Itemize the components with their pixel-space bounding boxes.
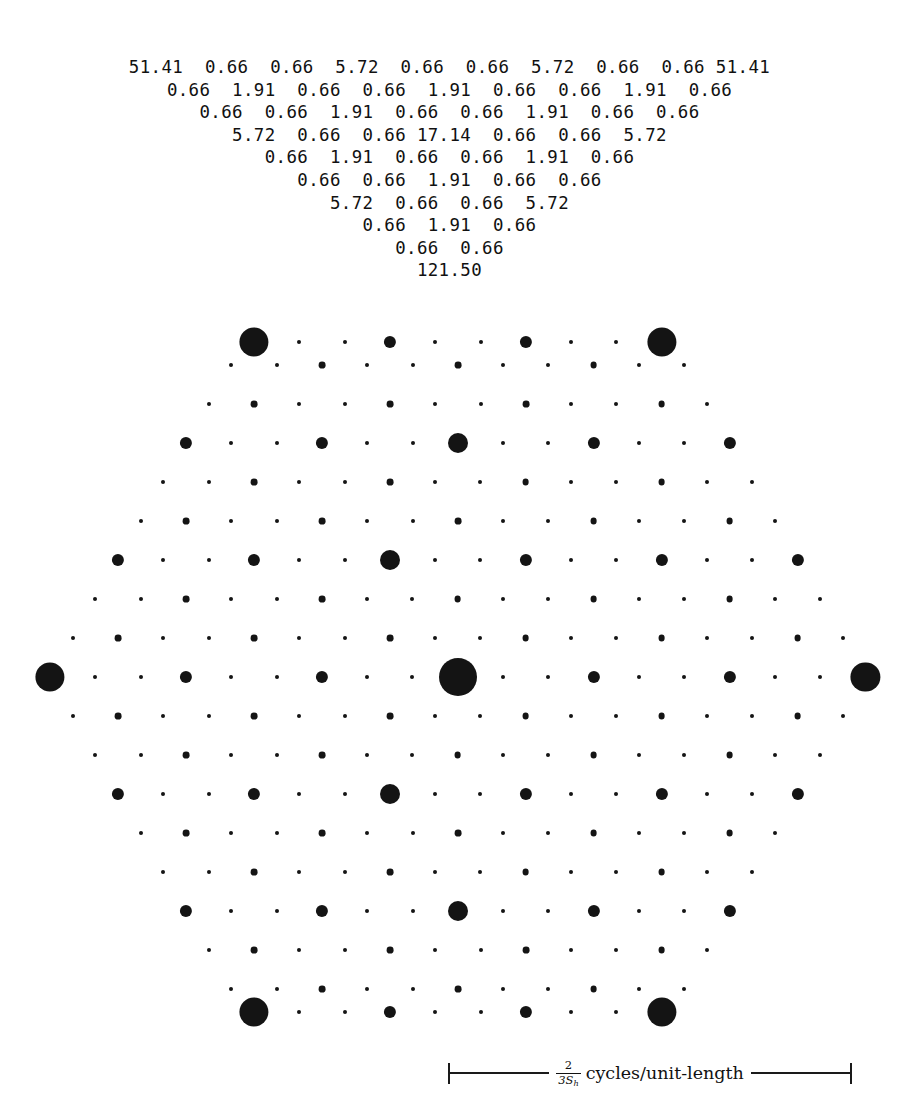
spectrum-dot <box>161 558 165 562</box>
spectrum-dot <box>569 792 573 796</box>
spectrum-dot <box>411 909 415 913</box>
spectrum-dot <box>682 519 686 523</box>
spectrum-dot <box>343 340 347 344</box>
spectrum-dot <box>318 362 325 369</box>
spectrum-dot <box>386 479 393 486</box>
spectrum-dot <box>773 753 777 757</box>
scale-fraction-denominator: 3Sh <box>556 1074 580 1087</box>
spectrum-dot <box>705 948 709 952</box>
spectrum-dot <box>478 480 482 484</box>
spectrum-dot <box>726 752 733 759</box>
spectrum-dot <box>614 480 618 484</box>
spectrum-dot <box>180 437 192 449</box>
spectrum-dot <box>297 792 301 796</box>
spectrum-dot <box>115 713 122 720</box>
spectrum-dot <box>297 480 301 484</box>
spectrum-dot <box>637 831 641 835</box>
spectrum-dot <box>520 1006 532 1018</box>
spectrum-dot <box>705 714 709 718</box>
spectrum-dot <box>501 909 505 913</box>
spectrum-dot <box>316 905 328 917</box>
spectrum-dot <box>851 662 880 691</box>
spectrum-dot <box>841 636 845 640</box>
spectrum-dot <box>705 480 709 484</box>
spectrum-dot <box>275 363 279 367</box>
spectrum-dot <box>275 909 279 913</box>
spectrum-dot <box>411 987 415 991</box>
spectrum-dot <box>546 831 550 835</box>
spectrum-dot <box>791 554 803 566</box>
spectrum-dot <box>316 671 328 683</box>
spectrum-dot <box>139 753 143 757</box>
spectrum-dot <box>343 948 347 952</box>
spectrum-dot <box>343 1010 347 1014</box>
spectrum-dot <box>637 441 641 445</box>
spectrum-dot <box>614 340 618 344</box>
spectrum-dot <box>637 363 641 367</box>
spectrum-dot <box>411 831 415 835</box>
spectrum-dot <box>588 905 600 917</box>
value-table-row: 0.66 1.91 0.66 <box>0 214 899 237</box>
spectrum-dot <box>546 597 550 601</box>
spectrum-dot <box>614 636 618 640</box>
spectrum-dot <box>522 869 529 876</box>
spectrum-dot <box>365 987 369 991</box>
spectrum-dot <box>637 519 641 523</box>
spectrum-dot <box>386 713 393 720</box>
spectrum-dot <box>411 363 415 367</box>
spectrum-dot <box>637 987 641 991</box>
spectrum-dot <box>297 870 301 874</box>
spectrum-dot <box>590 518 597 525</box>
spectrum-dot <box>297 402 301 406</box>
spectrum-dot <box>250 479 257 486</box>
spectrum-dot <box>705 792 709 796</box>
spectrum-dot <box>818 753 822 757</box>
spectrum-dot <box>501 597 505 601</box>
spectrum-dot <box>433 714 437 718</box>
spectrum-dot <box>316 437 328 449</box>
spectrum-dot <box>614 714 618 718</box>
spectrum-dot <box>433 948 437 952</box>
spectrum-dot <box>723 671 735 683</box>
scale-bar-left-rule <box>450 1072 550 1073</box>
spectrum-dot <box>318 518 325 525</box>
spectrum-dot <box>454 752 461 759</box>
spectrum-dot <box>773 519 777 523</box>
spectrum-dot <box>251 947 258 954</box>
value-table-row: 0.66 0.66 1.91 0.66 0.66 1.91 0.66 0.66 <box>0 101 899 124</box>
spectrum-dot <box>35 662 64 691</box>
spectrum-dot <box>569 1010 573 1014</box>
spectrum-dot <box>275 831 279 835</box>
spectrum-dot <box>750 636 754 640</box>
spectrum-dot <box>433 1010 437 1014</box>
spectrum-dot <box>478 558 482 562</box>
spectrum-dot <box>546 909 550 913</box>
spectrum-dot <box>365 519 369 523</box>
spectrum-dot <box>207 402 211 406</box>
spectrum-dot <box>520 788 532 800</box>
spectrum-dot <box>183 518 190 525</box>
spectrum-dot <box>229 675 233 679</box>
value-table-row: 51.41 0.66 0.66 5.72 0.66 0.66 5.72 0.66… <box>0 56 899 79</box>
spectrum-dot <box>454 362 461 369</box>
spectrum-dot <box>501 519 505 523</box>
value-table-row: 0.66 1.91 0.66 0.66 1.91 0.66 <box>0 146 899 169</box>
spectrum-dot <box>479 948 483 952</box>
spectrum-dot <box>614 558 618 562</box>
spectrum-dot <box>522 947 529 954</box>
spectrum-dot <box>318 986 325 993</box>
spectrum-dot <box>297 1010 301 1014</box>
spectrum-dot <box>454 986 461 993</box>
spectrum-dot <box>161 870 165 874</box>
spectrum-dot <box>750 792 754 796</box>
spectrum-dot <box>183 830 190 837</box>
spectrum-dot <box>384 1006 396 1018</box>
spectrum-dot <box>546 987 550 991</box>
spectrum-dot <box>71 714 75 718</box>
spectrum-dot <box>384 336 396 348</box>
spectrum-dot <box>297 714 301 718</box>
value-table-row: 5.72 0.66 0.66 17.14 0.66 0.66 5.72 <box>0 124 899 147</box>
spectrum-dot <box>726 518 733 525</box>
spectrum-dot <box>794 713 801 720</box>
spectrum-dot <box>343 870 347 874</box>
